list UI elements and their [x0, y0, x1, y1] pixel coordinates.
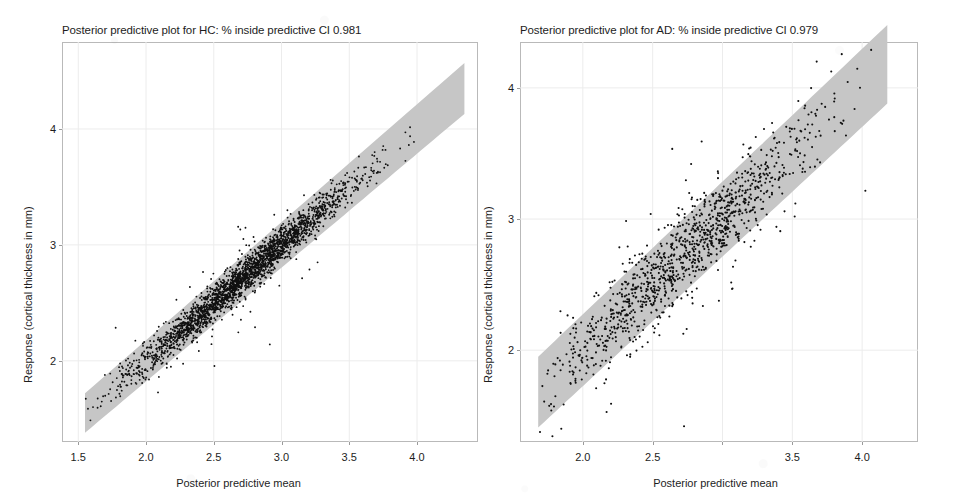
x-tick-label: 2.0	[138, 451, 153, 463]
y-tick-mark	[517, 219, 520, 220]
x-tick-label: 2.0	[575, 451, 590, 463]
panel-ad-scatter-plot	[477, 0, 954, 504]
panel-hc-scatter-plot	[0, 0, 477, 504]
x-tick-mark	[722, 442, 723, 445]
posterior-predictive-figure: Posterior predictive plot for HC: % insi…	[0, 0, 954, 504]
x-tick-label: 2.5	[645, 451, 660, 463]
x-tick-mark	[583, 442, 584, 445]
x-tick-mark	[417, 442, 418, 445]
y-tick-label: 3	[40, 239, 56, 251]
y-tick-mark	[517, 350, 520, 351]
y-tick-mark	[59, 361, 62, 362]
y-tick-label: 2	[498, 344, 514, 356]
panel-hc: Posterior predictive plot for HC: % insi…	[0, 0, 477, 504]
y-tick-label: 2	[40, 355, 56, 367]
x-tick-mark	[792, 442, 793, 445]
x-tick-label: 2.5	[206, 451, 221, 463]
y-tick-mark	[59, 245, 62, 246]
x-tick-mark	[653, 442, 654, 445]
x-tick-mark	[214, 442, 215, 445]
panel-ad: Posterior predictive plot for AD: % insi…	[477, 0, 954, 504]
y-tick-label: 3	[498, 213, 514, 225]
x-tick-label: 3.5	[785, 451, 800, 463]
x-tick-mark	[349, 442, 350, 445]
x-tick-mark	[146, 442, 147, 445]
x-tick-label: 3.5	[342, 451, 357, 463]
x-tick-label: 3.0	[274, 451, 289, 463]
x-tick-label: 4.0	[854, 451, 869, 463]
y-tick-label: 4	[498, 82, 514, 94]
x-tick-label: 1.5	[71, 451, 86, 463]
x-tick-mark	[78, 442, 79, 445]
y-tick-mark	[59, 129, 62, 130]
y-tick-label: 4	[40, 123, 56, 135]
x-tick-label: 4.0	[409, 451, 424, 463]
x-tick-mark	[282, 442, 283, 445]
y-tick-mark	[517, 88, 520, 89]
x-tick-mark	[862, 442, 863, 445]
